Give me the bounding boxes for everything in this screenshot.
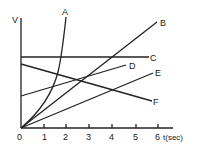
tick-label-2: 2 xyxy=(63,132,68,142)
tick-label-6: 6 xyxy=(155,132,160,142)
curve-label-b: B xyxy=(160,18,166,28)
curve-a xyxy=(21,17,66,128)
curve-label-c: C xyxy=(150,53,157,63)
curve-label-f: F xyxy=(153,97,159,107)
curve-label-a: A xyxy=(62,7,68,17)
curve-label-d: D xyxy=(129,61,136,71)
line-e xyxy=(21,73,153,128)
x-axis-label: t(sec) xyxy=(163,133,183,142)
tick-label-4: 4 xyxy=(109,132,114,142)
line-b xyxy=(21,22,157,128)
velocity-time-graph: V A B C D E F 0 1 2 3 4 5 6 t(sec) xyxy=(0,0,198,149)
curve-label-e: E xyxy=(155,68,161,78)
origin-label: 0 xyxy=(17,132,22,142)
tick-label-3: 3 xyxy=(86,132,91,142)
tick-label-1: 1 xyxy=(42,132,47,142)
tick-label-5: 5 xyxy=(133,132,138,142)
y-axis-label: V xyxy=(12,15,18,25)
